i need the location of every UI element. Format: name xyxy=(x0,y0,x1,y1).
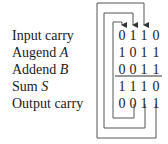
label-input-carry: Input carry xyxy=(12,28,74,44)
bit: 1 xyxy=(128,28,138,44)
bit: 0 xyxy=(151,28,161,44)
bit: 1 xyxy=(139,28,149,44)
label-sum: Sum S xyxy=(12,79,48,95)
bit: 1 xyxy=(117,45,127,61)
bit: 0 xyxy=(128,62,138,78)
label-text: Sum xyxy=(12,79,41,94)
variable-b: B xyxy=(60,62,69,77)
bit: 0 xyxy=(128,45,138,61)
label-addend: Addend B xyxy=(12,62,68,78)
bit: 1 xyxy=(117,79,127,95)
label-text: Input carry xyxy=(12,28,74,43)
bit: 1 xyxy=(151,96,161,112)
variable-a: A xyxy=(60,45,69,60)
bit: 0 xyxy=(128,96,138,112)
label-text: Augend xyxy=(12,45,60,60)
bit: 0 xyxy=(117,96,127,112)
label-text: Addend xyxy=(12,62,60,77)
bit: 1 xyxy=(128,79,138,95)
bit: 0 xyxy=(151,79,161,95)
bit: 1 xyxy=(139,45,149,61)
label-text: Output carry xyxy=(12,96,83,111)
bit: 0 xyxy=(117,28,127,44)
bit: 1 xyxy=(139,96,149,112)
bit: 1 xyxy=(139,62,149,78)
variable-s: S xyxy=(41,79,48,94)
bit: 1 xyxy=(151,45,161,61)
bit: 1 xyxy=(139,79,149,95)
label-augend: Augend A xyxy=(12,45,68,61)
bit: 1 xyxy=(151,62,161,78)
label-output-carry: Output carry xyxy=(12,96,83,112)
bit: 0 xyxy=(117,62,127,78)
